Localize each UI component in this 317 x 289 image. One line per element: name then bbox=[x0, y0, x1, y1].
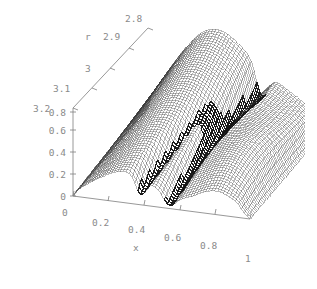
r-tick-label-2.8: 2.8 bbox=[125, 13, 142, 24]
r-axis-title: r bbox=[85, 31, 91, 42]
surface-plot-figure: 3.2 3.1 3 2.9 2.8 r 0 0.2 0.4 0.6 0.8 0 … bbox=[0, 0, 317, 289]
x-tick-label-0.8: 0.8 bbox=[200, 240, 217, 251]
x-tick-label-0.2: 0.2 bbox=[92, 217, 109, 228]
z-tick-label-0.6: 0.6 bbox=[49, 125, 66, 136]
x-tick-label-1: 1 bbox=[245, 253, 251, 264]
z-tick-label-0: 0 bbox=[60, 191, 66, 202]
r-tick-label-2.9: 2.9 bbox=[103, 31, 120, 42]
x-tick-label-0: 0 bbox=[62, 207, 68, 218]
r-tick-label-3: 3 bbox=[85, 63, 91, 74]
z-tick-label-0.4: 0.4 bbox=[49, 147, 66, 158]
labels-layer: 3.2 3.1 3 2.9 2.8 r 0 0.2 0.4 0.6 0.8 0 … bbox=[0, 0, 317, 289]
z-tick-label-0.8: 0.8 bbox=[49, 107, 66, 118]
x-tick-label-0.6: 0.6 bbox=[164, 232, 181, 243]
x-tick-label-0.4: 0.4 bbox=[128, 224, 145, 235]
z-tick-label-0.2: 0.2 bbox=[49, 169, 66, 180]
r-tick-label-3.2: 3.2 bbox=[33, 103, 50, 114]
r-tick-label-3.1: 3.1 bbox=[53, 83, 70, 94]
x-axis-title: x bbox=[133, 242, 139, 253]
